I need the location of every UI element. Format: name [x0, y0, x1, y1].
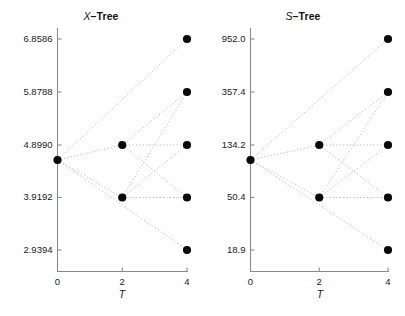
s-tree-node [246, 156, 254, 164]
x-tree-axes [58, 28, 189, 272]
x-tree-node [118, 193, 126, 201]
x-tree-xlabel: T [119, 288, 127, 300]
x-tree-ytick-label: 5.8788 [23, 86, 52, 97]
s-tree-node [384, 35, 392, 43]
s-tree-xtick-label: 0 [248, 276, 253, 287]
x-tree-ytick-label: 2.9394 [23, 244, 52, 255]
s-tree-plot: 952.0357.4134.250.418.9 024 T [202, 0, 405, 316]
s-tree-xlabel: T [317, 288, 325, 300]
x-tree-node [183, 193, 191, 201]
x-tree-y-ticks: 6.85865.87884.89903.91922.9394 [23, 33, 61, 255]
s-tree-ytick-label: 134.2 [222, 139, 246, 150]
x-tree-xtick-label: 4 [184, 276, 189, 287]
s-tree-ytick-label: 18.9 [227, 244, 246, 255]
s-tree-node [384, 141, 392, 149]
x-tree-plot: 6.85865.87884.89903.91922.9394 024 T [0, 0, 202, 316]
s-tree-ytick-label: 952.0 [222, 33, 246, 44]
x-tree-ytick-label: 3.9192 [23, 191, 52, 202]
x-tree-node [53, 156, 61, 164]
x-tree-xtick-label: 0 [55, 276, 60, 287]
s-tree-nodes [246, 35, 392, 254]
s-tree-y-ticks: 952.0357.4134.250.418.9 [222, 33, 255, 255]
figure-canvas: X–Tree 6.85865.87884.89903.91922.9394 02… [0, 0, 405, 316]
x-tree-node [118, 141, 126, 149]
s-tree-x-ticks: 024 [248, 268, 391, 288]
s-tree-node [315, 193, 323, 201]
panel-s-tree: S–Tree 952.0357.4134.250.418.9 024 T [202, 0, 404, 316]
x-tree-x-ticks: 024 [55, 268, 190, 288]
x-tree-xtick-label: 2 [120, 276, 125, 287]
s-tree-node [384, 193, 392, 201]
s-tree-axes [251, 28, 390, 272]
s-tree-ytick-label: 50.4 [227, 191, 246, 202]
s-tree-node [384, 88, 392, 96]
x-tree-ytick-label: 4.8990 [23, 139, 52, 150]
s-tree-ytick-label: 357.4 [222, 86, 246, 97]
s-tree-node [315, 141, 323, 149]
x-tree-node [183, 246, 191, 254]
x-tree-node [183, 35, 191, 43]
x-tree-node [183, 141, 191, 149]
panel-x-tree: X–Tree 6.85865.87884.89903.91922.9394 02… [0, 0, 202, 316]
x-tree-node [183, 88, 191, 96]
x-tree-ytick-label: 6.8586 [23, 33, 52, 44]
s-tree-node [384, 246, 392, 254]
s-tree-xtick-label: 2 [317, 276, 322, 287]
s-tree-xtick-label: 4 [385, 276, 390, 287]
